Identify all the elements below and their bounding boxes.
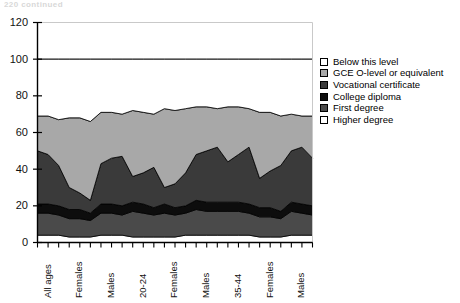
legend-higher-degree: Higher degree (320, 114, 454, 126)
legend-label: Vocational certificate (333, 80, 420, 90)
legend-label: College diploma (333, 92, 401, 102)
legend-below-this-level: Below this level (320, 56, 454, 68)
y-tick-label: 20 (2, 200, 28, 210)
legend-swatch-icon (320, 116, 328, 124)
legend-vocational-certificate: Vocational certificate (320, 79, 454, 91)
legend-label: Higher degree (333, 115, 393, 125)
legend-label: GCE O-level or equivalent (333, 68, 443, 78)
y-tick-label: 60 (2, 127, 28, 137)
x-tick-label: Males (295, 272, 306, 297)
y-tick-label: 100 (2, 54, 28, 64)
chart-plot-area (0, 0, 460, 303)
stacked-area-chart (0, 0, 460, 303)
x-tick-label: Females (73, 261, 84, 297)
legend-college-diploma: College diploma (320, 91, 454, 103)
x-tick-label: 35-44 (232, 273, 243, 297)
legend-gce-o-level: GCE O-level or equivalent (320, 68, 454, 80)
x-tick-label: All ages (42, 264, 53, 298)
legend-label: First degree (333, 103, 384, 113)
x-tick-label: 20-24 (137, 273, 148, 297)
legend-swatch-icon (320, 104, 328, 112)
x-tick-label: Males (105, 272, 116, 297)
chart-legend: Below this levelGCE O-level or equivalen… (320, 56, 454, 126)
legend-swatch-icon (320, 93, 328, 101)
y-tick-label: 80 (2, 90, 28, 100)
y-tick-label: 40 (2, 164, 28, 174)
x-tick-label: Females (168, 261, 179, 297)
y-tick-label: 120 (2, 17, 28, 27)
x-tick-label: Females (264, 261, 275, 297)
legend-swatch-icon (320, 69, 328, 77)
legend-swatch-icon (320, 81, 328, 89)
y-tick-label: 0 (2, 237, 28, 247)
x-tick-label: Males (200, 272, 211, 297)
legend-label: Below this level (333, 57, 398, 67)
chart-page: 220 continued 020406080100120 All agesFe… (0, 0, 460, 303)
legend-swatch-icon (320, 58, 328, 66)
legend-first-degree: First degree (320, 102, 454, 114)
